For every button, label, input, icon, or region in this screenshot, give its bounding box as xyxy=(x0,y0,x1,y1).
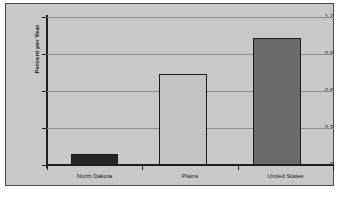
chart-screenshot: Percent per Year 1.2 0.9 0.6 0.3 0 xyxy=(0,0,342,201)
bar-united-states[interactable] xyxy=(253,38,301,165)
bar-plains[interactable] xyxy=(159,74,207,165)
x-label-united-states: United States xyxy=(238,172,333,180)
x-label-north-dakota: North Dakota xyxy=(47,172,142,180)
x-tick-mark-start xyxy=(47,166,48,170)
gridline-1.2 xyxy=(47,17,334,18)
y-axis-title: Percent per Year xyxy=(34,4,40,94)
x-tick-mark-1 xyxy=(142,166,143,170)
x-tick-mark-end xyxy=(333,166,334,170)
chart-frame: Percent per Year 1.2 0.9 0.6 0.3 0 xyxy=(5,3,334,186)
bar-north-dakota[interactable] xyxy=(71,154,118,165)
x-label-plains: Plains xyxy=(142,172,238,180)
x-tick-mark-2 xyxy=(238,166,239,170)
plot-area xyxy=(47,17,334,165)
